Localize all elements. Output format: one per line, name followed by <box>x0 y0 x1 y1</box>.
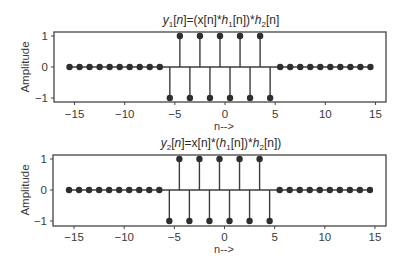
stem-marker <box>197 33 203 39</box>
stem-marker <box>66 64 72 70</box>
x-tick-label: 0 <box>221 231 227 243</box>
subplot-bottom: y2[n]=x[n]*(h1[n])*h2[n]) −15−10−5051015… <box>19 136 386 255</box>
stem-marker <box>266 218 272 224</box>
subplot-top: y1[n]=(x[n]*h1[n])*h2[n] −15−10−5051015 … <box>19 13 386 132</box>
stem-marker <box>116 64 122 70</box>
stem-marker <box>367 64 373 70</box>
stem-marker <box>156 187 162 193</box>
stem-marker <box>186 218 192 224</box>
x-tick-label: 15 <box>369 108 382 120</box>
x-tick-label: 10 <box>319 108 332 120</box>
stem-marker <box>367 187 373 193</box>
stem-marker <box>357 187 363 193</box>
x-tick-label: −5 <box>168 108 181 120</box>
y-axis-label: Amplitude <box>19 41 31 92</box>
stem-marker <box>247 95 253 101</box>
stem-marker <box>297 187 303 193</box>
stem-marker <box>96 187 102 193</box>
stem-marker <box>236 156 242 162</box>
stem-marker <box>237 33 243 39</box>
plot-title: y2[n]=x[n]*(h1[n])*h2[n]) <box>160 136 281 152</box>
stem-marker <box>287 64 293 70</box>
stem-marker <box>256 156 262 162</box>
stem-marker <box>317 187 323 193</box>
stem-marker <box>106 64 112 70</box>
y-axis-ticks: −101 <box>35 30 54 104</box>
stem-marker <box>337 187 343 193</box>
figure: y1[n]=(x[n]*h1[n])*h2[n] −15−10−5051015 … <box>0 0 406 261</box>
x-axis-label: n--> <box>214 243 234 255</box>
stem-marker <box>276 187 282 193</box>
stem-marker <box>126 187 132 193</box>
stem-marker <box>86 187 92 193</box>
y-tick-label: −1 <box>34 215 47 227</box>
plot-title: y1[n]=(x[n]*h1[n])*h2[n] <box>162 13 279 29</box>
x-tick-label: 10 <box>318 231 331 243</box>
stem-marker <box>137 64 143 70</box>
stem-marker <box>136 187 142 193</box>
x-tick-label: 15 <box>369 231 382 243</box>
y-tick-label: 1 <box>41 153 47 165</box>
stem-marker <box>146 187 152 193</box>
stem-marker <box>337 64 343 70</box>
stem-marker <box>307 64 313 70</box>
stem-marker <box>257 33 263 39</box>
stem-series <box>66 33 373 101</box>
stem-marker <box>106 187 112 193</box>
x-axis-ticks: −15−10−5051015 <box>64 226 381 243</box>
y-tick-label: 1 <box>42 30 48 42</box>
stem-series <box>66 156 373 224</box>
stem-marker <box>127 64 133 70</box>
y-tick-label: 0 <box>41 184 47 196</box>
stem-marker <box>116 187 122 193</box>
stem-marker <box>167 95 173 101</box>
y-axis-label: Amplitude <box>19 164 31 215</box>
x-tick-label: −10 <box>115 108 135 120</box>
stem-marker <box>66 187 72 193</box>
stem-marker <box>277 64 283 70</box>
stem-marker <box>357 64 363 70</box>
x-tick-label: −15 <box>65 108 85 120</box>
stem-marker <box>206 218 212 224</box>
x-tick-label: −10 <box>114 231 134 243</box>
stem-marker <box>347 187 353 193</box>
y-tick-label: −1 <box>35 92 48 104</box>
stem-marker <box>307 187 313 193</box>
stem-marker <box>327 187 333 193</box>
stem-marker <box>86 64 92 70</box>
stem-marker <box>317 64 323 70</box>
stem-marker <box>176 156 182 162</box>
stem-marker <box>187 95 193 101</box>
stem-marker <box>157 64 163 70</box>
stem-marker <box>246 218 252 224</box>
stem-marker <box>166 218 172 224</box>
stem-marker <box>147 64 153 70</box>
y-tick-label: 0 <box>42 61 48 73</box>
x-tick-label: 5 <box>272 108 278 120</box>
x-axis-ticks: −15−10−5051015 <box>65 102 382 120</box>
stem-marker <box>217 33 223 39</box>
x-tick-label: 5 <box>271 231 277 243</box>
stem-marker <box>177 33 183 39</box>
y-axis-ticks: −101 <box>34 153 53 227</box>
x-axis-label: n--> <box>214 120 234 132</box>
stem-marker <box>286 187 292 193</box>
x-tick-label: −5 <box>168 231 181 243</box>
stem-marker <box>297 64 303 70</box>
stem-marker <box>227 95 233 101</box>
stem-marker <box>76 187 82 193</box>
stem-marker <box>76 64 82 70</box>
stem-marker <box>207 95 213 101</box>
stem-marker <box>267 95 273 101</box>
x-tick-label: −15 <box>64 231 84 243</box>
stem-marker <box>196 156 202 162</box>
x-tick-label: 0 <box>222 108 228 120</box>
stem-marker <box>96 64 102 70</box>
stem-marker <box>347 64 353 70</box>
stem-marker <box>327 64 333 70</box>
stem-marker <box>226 218 232 224</box>
stem-marker <box>216 156 222 162</box>
